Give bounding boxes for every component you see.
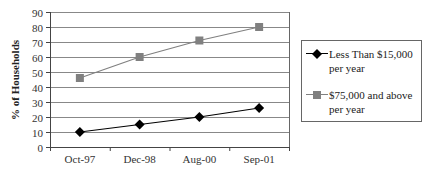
legend-label-low-income: Less Than $15,000 per year <box>329 47 421 75</box>
y-axis-ticks: 0102030405060708090 <box>32 7 44 154</box>
legend-label-line2: per year <box>329 61 421 75</box>
square-marker-icon <box>195 37 203 45</box>
legend-label-line2: per year <box>329 102 421 116</box>
y-tick-label: 0 <box>38 142 44 154</box>
y-tick-label: 90 <box>32 7 44 19</box>
y-tick-label: 60 <box>32 52 44 64</box>
y-tick-label: 20 <box>32 112 44 124</box>
legend-label-high-income: $75,000 and above per year <box>329 88 421 116</box>
y-tick-label: 40 <box>32 82 44 94</box>
x-tick-label: Aug-00 <box>183 153 217 165</box>
diamond-marker-icon <box>194 112 204 122</box>
diamond-marker-icon <box>312 49 322 59</box>
x-axis-ticks: Oct-97Dec-98Aug-00Sep-01 <box>65 153 275 165</box>
x-tick-label: Dec-98 <box>123 153 156 165</box>
square-marker-icon <box>313 91 321 99</box>
y-axis-label: % of Households <box>9 39 21 120</box>
diamond-marker-icon <box>75 127 85 137</box>
legend: Less Than $15,000 per year $75,000 and a… <box>301 40 422 122</box>
y-tick-label: 70 <box>32 37 44 49</box>
square-marker-icon <box>136 53 144 61</box>
series-line <box>80 108 259 132</box>
series-line <box>80 27 259 78</box>
diamond-marker-icon <box>135 120 145 130</box>
y-tick-label: 50 <box>32 67 44 79</box>
x-tick-label: Oct-97 <box>65 153 96 165</box>
legend-label-line1: Less Than $15,000 <box>329 47 421 61</box>
square-marker-icon <box>76 74 84 82</box>
y-tick-label: 80 <box>32 22 44 34</box>
data-series <box>75 23 264 137</box>
y-tick-label: 30 <box>32 97 44 109</box>
square-marker-icon <box>255 23 263 31</box>
x-tick-label: Sep-01 <box>244 153 275 165</box>
diamond-marker-icon <box>254 103 264 113</box>
y-tick-label: 10 <box>32 127 44 139</box>
legend-label-line1: $75,000 and above <box>329 88 421 102</box>
